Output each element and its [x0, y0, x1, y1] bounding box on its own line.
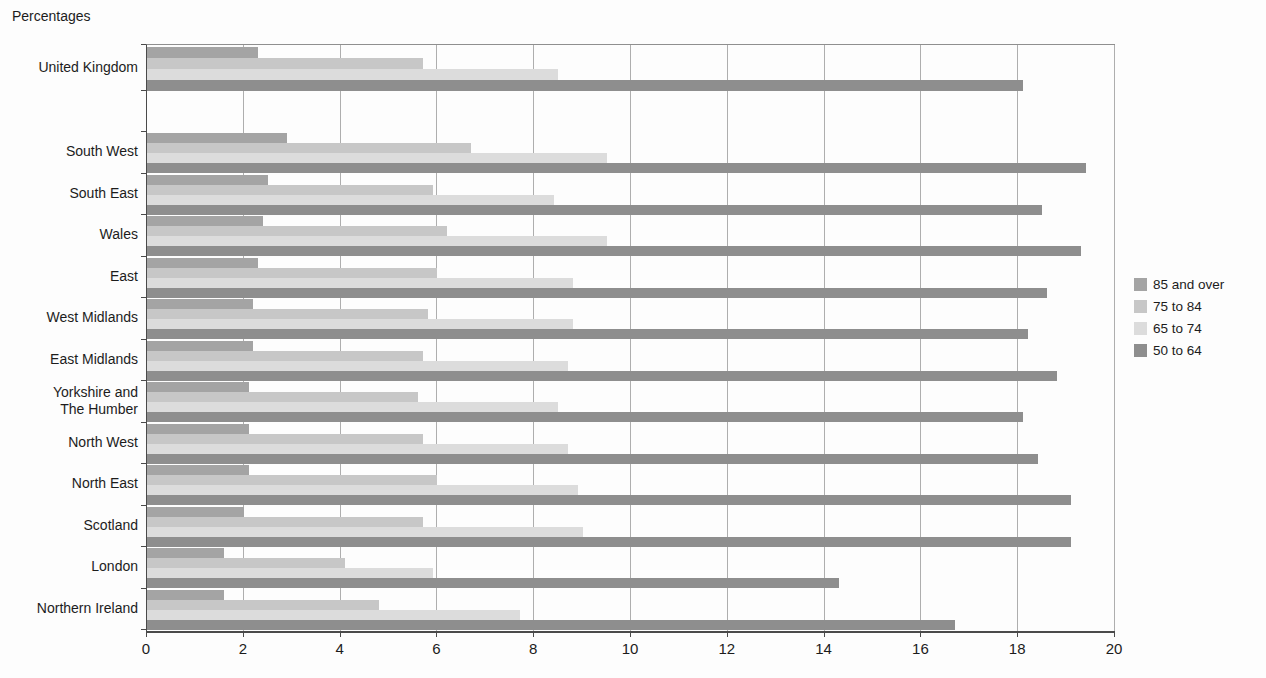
x-axis-tick-6 — [436, 632, 437, 637]
y-axis-tick-7 — [141, 339, 146, 340]
bar-south-east-85-and-over — [147, 175, 268, 185]
category-label-west-midlands: West Midlands — [0, 298, 138, 338]
bar-yorkshire-and-the-humber-85-and-over — [147, 382, 249, 392]
x-axis-tick-0 — [146, 632, 147, 637]
bar-west-midlands-65-to-74 — [147, 319, 573, 329]
x-axis-tick-14 — [824, 632, 825, 637]
gridline-x-20 — [1114, 45, 1115, 631]
bar-northern-ireland-75-to-84 — [147, 600, 379, 610]
legend-label: 50 to 64 — [1153, 343, 1202, 358]
bar-north-east-50-to-64 — [147, 495, 1071, 505]
bar-wales-85-and-over — [147, 216, 263, 226]
x-axis-label-20: 20 — [1094, 640, 1134, 657]
category-label-northern-ireland: Northern Ireland — [0, 589, 138, 629]
y-axis-tick-12 — [141, 546, 146, 547]
chart-title: Percentages — [12, 8, 91, 24]
bar-north-east-85-and-over — [147, 465, 249, 475]
y-axis-tick-14 — [141, 629, 146, 630]
legend-item-85-and-over: 85 and over — [1134, 277, 1224, 292]
bar-north-west-65-to-74 — [147, 444, 568, 454]
bar-northern-ireland-85-and-over — [147, 590, 224, 600]
legend-swatch-icon — [1134, 300, 1147, 313]
bar-scotland-50-to-64 — [147, 537, 1071, 547]
bar-wales-50-to-64 — [147, 246, 1081, 256]
legend-swatch-icon — [1134, 322, 1147, 335]
bar-north-west-75-to-84 — [147, 434, 423, 444]
bar-scotland-85-and-over — [147, 507, 244, 517]
bar-united-kingdom-50-to-64 — [147, 80, 1023, 91]
x-axis-label-4: 4 — [320, 640, 360, 657]
bar-east-50-to-64 — [147, 288, 1047, 298]
y-axis-tick-2 — [141, 131, 146, 132]
bar-east-65-to-74 — [147, 278, 573, 288]
bar-united-kingdom-75-to-84 — [147, 58, 423, 69]
bar-united-kingdom-65-to-74 — [147, 69, 558, 80]
plot-area — [146, 44, 1115, 633]
bar-wales-65-to-74 — [147, 236, 607, 246]
category-label-united-kingdom: United Kingdom — [0, 48, 138, 88]
bar-west-midlands-85-and-over — [147, 299, 253, 309]
bar-south-west-50-to-64 — [147, 163, 1086, 173]
x-axis-label-6: 6 — [416, 640, 456, 657]
category-label-east-midlands: East Midlands — [0, 340, 138, 380]
bar-north-west-50-to-64 — [147, 454, 1038, 464]
category-label-north-east: North East — [0, 464, 138, 504]
bar-london-50-to-64 — [147, 578, 839, 588]
y-axis-tick-10 — [141, 463, 146, 464]
x-axis-label-14: 14 — [804, 640, 844, 657]
legend-label: 75 to 84 — [1153, 299, 1202, 314]
legend-label: 85 and over — [1153, 277, 1224, 292]
bar-yorkshire-and-the-humber-50-to-64 — [147, 412, 1023, 422]
y-axis-tick-4 — [141, 214, 146, 215]
x-axis-label-18: 18 — [997, 640, 1037, 657]
y-axis-tick-1 — [141, 90, 146, 91]
bar-east-midlands-65-to-74 — [147, 361, 568, 371]
x-axis-label-10: 10 — [610, 640, 650, 657]
x-axis-tick-20 — [1114, 632, 1115, 637]
bar-yorkshire-and-the-humber-65-to-74 — [147, 402, 558, 412]
bar-east-midlands-50-to-64 — [147, 371, 1057, 381]
legend: 85 and over75 to 8465 to 7450 to 64 — [1134, 277, 1224, 365]
x-axis-label-0: 0 — [126, 640, 166, 657]
bar-south-west-85-and-over — [147, 133, 287, 143]
bar-north-east-65-to-74 — [147, 485, 578, 495]
bar-wales-75-to-84 — [147, 226, 447, 236]
legend-item-65-to-74: 65 to 74 — [1134, 321, 1224, 336]
y-axis-tick-8 — [141, 380, 146, 381]
category-label-east: East — [0, 257, 138, 297]
x-axis-tick-2 — [243, 632, 244, 637]
y-axis-tick-11 — [141, 505, 146, 506]
y-axis-tick-0 — [141, 44, 146, 45]
y-axis-tick-9 — [141, 422, 146, 423]
bar-london-85-and-over — [147, 548, 224, 558]
x-axis-tick-16 — [920, 632, 921, 637]
bar-east-midlands-75-to-84 — [147, 351, 423, 361]
bar-east-85-and-over — [147, 258, 258, 268]
x-axis-tick-8 — [533, 632, 534, 637]
category-label-south-east: South East — [0, 174, 138, 214]
x-axis-label-2: 2 — [223, 640, 263, 657]
bar-south-east-65-to-74 — [147, 195, 554, 205]
bar-north-east-75-to-84 — [147, 475, 437, 485]
bar-northern-ireland-50-to-64 — [147, 620, 955, 630]
x-axis-tick-18 — [1017, 632, 1018, 637]
legend-swatch-icon — [1134, 344, 1147, 357]
legend-item-50-to-64: 50 to 64 — [1134, 343, 1224, 358]
bar-north-west-85-and-over — [147, 424, 249, 434]
x-axis-tick-10 — [630, 632, 631, 637]
legend-label: 65 to 74 — [1153, 321, 1202, 336]
category-label-south-west: South West — [0, 132, 138, 172]
x-axis-tick-12 — [727, 632, 728, 637]
x-axis-label-16: 16 — [900, 640, 940, 657]
bar-yorkshire-and-the-humber-75-to-84 — [147, 392, 418, 402]
y-axis-tick-13 — [141, 588, 146, 589]
chart-figure: Percentages United KingdomSouth WestSout… — [0, 0, 1266, 678]
y-axis-tick-5 — [141, 256, 146, 257]
bar-west-midlands-50-to-64 — [147, 329, 1028, 339]
bar-south-west-75-to-84 — [147, 143, 471, 153]
bar-london-65-to-74 — [147, 568, 433, 578]
bar-south-east-75-to-84 — [147, 185, 433, 195]
bar-united-kingdom-85-and-over — [147, 47, 258, 58]
bar-south-east-50-to-64 — [147, 205, 1042, 215]
category-label-north-west: North West — [0, 423, 138, 463]
